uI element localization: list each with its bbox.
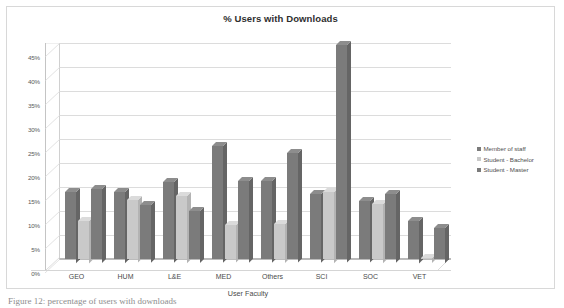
plot-area: 0%5%10%15%20%25%30%35%40%45% (45, 43, 451, 271)
bar-soc-series-1[interactable] (372, 204, 383, 259)
y-axis-tick-label: 30% (28, 126, 40, 133)
bar-top (408, 217, 419, 221)
x-axis-tick-geo: GEO (52, 273, 102, 280)
x-axis-ticks: GEOHUML&EMEDOthersSCISOCVET (45, 273, 451, 287)
bar-top (310, 190, 321, 194)
bar-group (310, 43, 347, 259)
bar-top (78, 217, 89, 221)
bar-hum-series-2[interactable] (140, 205, 151, 259)
legend-item-1[interactable]: Student - Bachelor (477, 156, 561, 163)
legend-item-0[interactable]: Member of staff (477, 145, 561, 152)
bar-face (385, 194, 396, 259)
y-axis-tick-label: 45% (28, 54, 40, 61)
bar-sci-series-1[interactable] (323, 192, 334, 259)
bar-others-series-1[interactable] (274, 224, 285, 259)
gridline-lead (45, 43, 60, 57)
bar-soc-series-2[interactable] (385, 194, 396, 259)
x-axis-baseline (31, 270, 451, 271)
gridline-lead (45, 235, 60, 249)
bar-vet-series-0[interactable] (408, 221, 419, 259)
bar-geo-series-1[interactable] (78, 221, 89, 259)
bar-l-e-series-0[interactable] (163, 182, 174, 259)
bar-face (287, 153, 298, 259)
legend-swatch-icon (477, 157, 481, 161)
bar-face (140, 205, 151, 259)
bar-geo-series-0[interactable] (65, 192, 76, 259)
chart-title: % Users with Downloads (7, 13, 554, 24)
bar-group (408, 43, 445, 259)
bar-vet-series-2[interactable] (434, 228, 445, 259)
bar-face (189, 211, 200, 259)
bar-l-e-series-1[interactable] (176, 196, 187, 259)
x-axis-tick-others: Others (248, 273, 298, 280)
bar-top (127, 196, 138, 200)
bar-top (65, 188, 76, 192)
bar-sci-series-0[interactable] (310, 194, 321, 259)
bar-face (114, 192, 125, 259)
bar-face (336, 45, 347, 259)
gridline (59, 259, 451, 260)
bar-hum-series-0[interactable] (114, 192, 125, 259)
bar-top (140, 201, 151, 205)
bar-face (310, 194, 321, 259)
bar-med-series-0[interactable] (212, 146, 223, 259)
bar-face (212, 146, 223, 259)
gridline-lead (45, 115, 60, 129)
bar-group (359, 43, 396, 259)
bar-face (372, 204, 383, 259)
y-axis-tick-label: 40% (28, 78, 40, 85)
bar-face (91, 189, 102, 259)
y-axis-tick-label: 5% (31, 246, 40, 253)
bar-face (408, 221, 419, 259)
bar-group (114, 43, 151, 259)
bar-top (212, 142, 223, 146)
legend-label: Student - Bachelor (484, 156, 534, 163)
legend-label: Student - Master (484, 166, 529, 173)
x-axis-tick-sci: SCI (297, 273, 347, 280)
bar-top (189, 207, 200, 211)
bar-hum-series-1[interactable] (127, 200, 138, 259)
bar-med-series-2[interactable] (238, 181, 249, 259)
x-axis-tick-vet: VET (395, 273, 445, 280)
bar-side (102, 189, 106, 259)
legend-label: Member of staff (484, 145, 526, 152)
bar-geo-series-2[interactable] (91, 189, 102, 259)
bar-top (372, 200, 383, 204)
bar-top (434, 224, 445, 228)
y-axis-tick-label: 35% (28, 102, 40, 109)
bar-med-series-1[interactable] (225, 225, 236, 259)
bar-face (65, 192, 76, 259)
bar-face (78, 221, 89, 259)
bar-l-e-series-2[interactable] (189, 211, 200, 259)
bar-top (261, 177, 272, 181)
bar-top (323, 188, 334, 192)
legend-swatch-icon (477, 147, 481, 151)
bar-soc-series-0[interactable] (359, 201, 370, 259)
chart-frame: % Users with Downloads 0%5%10%15%20%25%3… (6, 6, 555, 289)
bar-group (163, 43, 200, 259)
x-axis-tick-med: MED (199, 273, 249, 280)
gridline-lead (45, 91, 60, 105)
legend-item-2[interactable]: Student - Master (477, 166, 561, 173)
bar-top (287, 149, 298, 153)
bar-top (421, 254, 432, 258)
bar-face (421, 258, 432, 259)
y-axis-tick-label: 10% (28, 222, 40, 229)
bar-face (323, 192, 334, 259)
bar-face (163, 182, 174, 259)
bar-others-series-2[interactable] (287, 153, 298, 259)
x-axis-tick-hum: HUM (101, 273, 151, 280)
bar-sci-series-2[interactable] (336, 45, 347, 259)
x-axis-tick-l-e: L&E (150, 273, 200, 280)
x-axis-tick-soc: SOC (346, 273, 396, 280)
bars-layer (59, 43, 451, 259)
legend: Member of staffStudent - BachelorStudent… (477, 145, 561, 177)
bar-top (336, 41, 347, 45)
bar-side (200, 211, 204, 259)
bar-vet-series-1[interactable] (421, 258, 432, 259)
bar-top (274, 220, 285, 224)
bar-others-series-0[interactable] (261, 181, 272, 259)
bar-top (114, 188, 125, 192)
gridline-lead (45, 187, 60, 201)
y-axis-tick-label: 15% (28, 198, 40, 205)
